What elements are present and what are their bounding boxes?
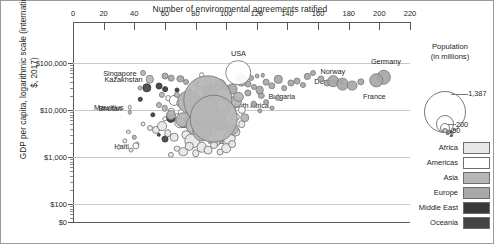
y-tick bbox=[68, 63, 73, 64]
point-label-usa: USA bbox=[231, 48, 246, 57]
bubble bbox=[228, 140, 236, 148]
legend-swatch bbox=[463, 217, 490, 229]
y-minor-tick bbox=[70, 88, 73, 89]
gridline bbox=[73, 157, 410, 158]
point-label-france: France bbox=[363, 92, 386, 101]
region-legend: AfricaAmericasAsiaEuropeMiddle EastOcean… bbox=[408, 140, 490, 230]
x-tick-label: 160 bbox=[312, 9, 325, 18]
legend-label: Asia bbox=[443, 173, 458, 182]
x-tick bbox=[73, 22, 74, 30]
bubble-mauritius bbox=[127, 105, 131, 109]
y-minor-tick bbox=[70, 124, 73, 125]
chart-figure: Number of environmental agreements ratif… bbox=[0, 0, 495, 245]
y-tick bbox=[68, 157, 73, 158]
legend-item-europe[interactable]: Europe bbox=[408, 185, 490, 200]
legend-label: Oceania bbox=[430, 218, 458, 227]
x-tick bbox=[349, 22, 350, 30]
x-tick-label: 220 bbox=[404, 9, 417, 18]
y-minor-tick bbox=[70, 143, 73, 144]
x-tick-label: 140 bbox=[281, 9, 294, 18]
bubble bbox=[250, 101, 257, 108]
y-minor-tick bbox=[70, 77, 73, 78]
plot-area: 020406080100120140160180200220 $100,000$… bbox=[73, 40, 410, 222]
x-tick bbox=[226, 22, 227, 30]
bubble bbox=[261, 73, 265, 77]
x-axis-line bbox=[73, 222, 410, 223]
bubble bbox=[244, 89, 251, 96]
gridline bbox=[73, 204, 410, 205]
y-tick-label: $100,000 bbox=[36, 59, 67, 68]
bubble bbox=[168, 75, 175, 82]
y-tick-label: $10,000 bbox=[40, 106, 67, 115]
bubble bbox=[240, 113, 250, 123]
bubble-bhutan bbox=[127, 110, 131, 114]
point-label-bhutan: Bhutan bbox=[99, 104, 122, 113]
y-axis-title: GDP per capita, logarithmic scale (inter… bbox=[18, 0, 39, 163]
y-minor-tick bbox=[70, 162, 73, 163]
y-minor-tick bbox=[70, 115, 73, 116]
bubble bbox=[138, 97, 142, 101]
x-tick bbox=[318, 22, 319, 30]
point-label-germany: Germany bbox=[371, 57, 401, 66]
bubble bbox=[270, 106, 275, 111]
x-tick-label: 0 bbox=[71, 9, 75, 18]
x-tick-label: 60 bbox=[161, 9, 169, 18]
bubble-norway bbox=[311, 70, 317, 76]
y-minor-tick bbox=[70, 135, 73, 136]
bubble bbox=[166, 110, 176, 120]
bubble bbox=[257, 108, 262, 113]
y-minor-tick bbox=[70, 82, 73, 83]
bubble-bulgaria bbox=[258, 93, 264, 99]
x-tick bbox=[410, 22, 411, 30]
bubble-usa bbox=[226, 60, 252, 86]
y-minor-tick bbox=[70, 171, 73, 172]
y-minor-tick bbox=[70, 120, 73, 121]
bubble bbox=[150, 112, 155, 117]
bubble-india bbox=[190, 95, 239, 144]
bubble bbox=[159, 92, 165, 98]
population-legend-title: Population (in millions) bbox=[412, 42, 488, 61]
x-tick-label: 100 bbox=[220, 9, 233, 18]
x-tick-label: 20 bbox=[99, 9, 107, 18]
legend-item-oceania[interactable]: Oceania bbox=[408, 215, 490, 230]
legend-swatch bbox=[463, 142, 490, 154]
legend-item-americas[interactable]: Americas bbox=[408, 155, 490, 170]
bubble bbox=[142, 83, 151, 92]
bubble bbox=[357, 78, 364, 85]
population-leader-line bbox=[451, 94, 468, 95]
bubble bbox=[346, 80, 357, 91]
y-minor-tick bbox=[70, 218, 73, 219]
y-minor-tick bbox=[70, 182, 73, 183]
bubble bbox=[274, 75, 282, 83]
y-minor-tick bbox=[70, 164, 73, 165]
y-tick-label: $0 bbox=[59, 218, 67, 227]
point-label-bulgaria: Bulgaria bbox=[268, 91, 295, 100]
y-tick-label: $1,000 bbox=[44, 153, 67, 162]
y-minor-tick bbox=[70, 159, 73, 160]
y-minor-tick bbox=[70, 96, 73, 97]
legend-swatch bbox=[463, 157, 490, 169]
x-tick bbox=[104, 22, 105, 30]
y-minor-tick bbox=[70, 73, 73, 74]
legend-item-africa[interactable]: Africa bbox=[408, 140, 490, 155]
y-minor-tick bbox=[70, 112, 73, 113]
x-tick bbox=[287, 22, 288, 30]
y-minor-tick bbox=[70, 68, 73, 69]
legend-label: Africa bbox=[439, 143, 458, 152]
bubble bbox=[138, 85, 143, 90]
x-tick-label: 80 bbox=[191, 9, 199, 18]
x-tick bbox=[134, 22, 135, 30]
y-minor-tick bbox=[70, 65, 73, 66]
legend-item-asia[interactable]: Asia bbox=[408, 170, 490, 185]
bubble bbox=[170, 133, 179, 142]
legend-item-middle-east[interactable]: Middle East bbox=[408, 200, 490, 215]
bubble-denmark bbox=[304, 73, 310, 79]
population-legend-title-line1: Population bbox=[432, 42, 468, 51]
legend-label: Americas bbox=[427, 158, 458, 167]
bubble-france bbox=[370, 74, 383, 87]
x-axis-title: Number of environmental agreements ratif… bbox=[60, 4, 420, 14]
y-minor-tick bbox=[70, 211, 73, 212]
bubble-kazakhstan bbox=[145, 75, 153, 83]
bubble-singapore bbox=[140, 70, 146, 76]
bubble bbox=[132, 135, 136, 139]
